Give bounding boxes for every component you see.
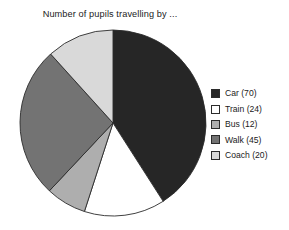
legend-item-bus: Bus (12) [211,117,289,132]
legend-swatch-bus [211,120,220,129]
pie-chart-figure: Number of pupils travelling by ... Car (… [0,0,289,230]
legend-swatch-car [211,89,220,98]
legend-label-bus: Bus (12) [225,120,257,129]
legend-label-train: Train (24) [225,105,262,114]
chart-title: Number of pupils travelling by ... [0,9,220,19]
pie-svg [18,28,208,218]
legend-item-walk: Walk (45) [211,132,289,147]
chart-legend: Car (70)Train (24)Bus (12)Walk (45)Coach… [211,86,289,163]
pie-plot-area [18,28,208,218]
pie-slice-group [20,30,206,216]
legend-label-walk: Walk (45) [225,136,261,145]
legend-item-train: Train (24) [211,101,289,116]
legend-item-coach: Coach (20) [211,148,289,163]
legend-swatch-coach [211,151,220,160]
legend-label-coach: Coach (20) [225,151,268,160]
legend-swatch-walk [211,135,220,144]
legend-label-car: Car (70) [225,89,257,98]
legend-swatch-train [211,105,220,114]
legend-item-car: Car (70) [211,86,289,101]
